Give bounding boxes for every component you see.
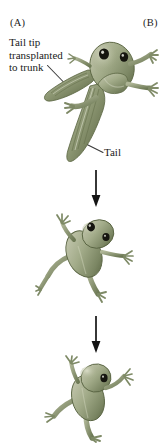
arrow-stage-2-to-3 xyxy=(88,316,104,354)
panel-label-a: (A) xyxy=(10,18,25,29)
illustration-froglet-intermediate xyxy=(36,212,136,304)
illustration-froglet-final xyxy=(44,356,136,442)
arrow-stage-1-to-2 xyxy=(88,170,104,208)
figure-root: (A) (B) Tail tip transplanted to trunk T… xyxy=(0,0,163,444)
illustration-tadpole-with-transplant xyxy=(34,26,160,166)
